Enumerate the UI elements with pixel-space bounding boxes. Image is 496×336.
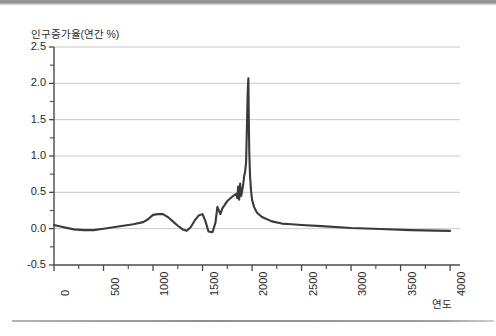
x-tick-label: 1000 xyxy=(158,272,170,296)
y-tick-label: -0.5 xyxy=(18,258,46,270)
x-tick-label: 4000 xyxy=(455,272,467,296)
x-tick-label: 2000 xyxy=(257,272,269,296)
population-growth-rate-chart: 인구증가율(연간 %) 연도 -0.50.00.51.01.52.02.5 05… xyxy=(0,0,496,336)
y-tick-label: 1.0 xyxy=(18,149,46,161)
x-tick-label: 0 xyxy=(59,290,71,296)
x-tick-label: 500 xyxy=(109,278,121,296)
y-tick-label: 2.5 xyxy=(18,40,46,52)
y-tick-label: 2.0 xyxy=(18,76,46,88)
y-tick-label: 0.0 xyxy=(18,222,46,234)
x-tick-label: 3500 xyxy=(406,272,418,296)
y-axis-title: 인구증가율(연간 %) xyxy=(31,26,119,41)
x-tick-label: 3000 xyxy=(356,272,368,296)
x-axis-title: 연도 xyxy=(432,296,452,311)
y-axis xyxy=(49,47,54,265)
y-tick-label: 1.5 xyxy=(18,113,46,125)
x-tick-label: 2500 xyxy=(307,272,319,296)
y-tick-label: 0.5 xyxy=(18,185,46,197)
data-series xyxy=(54,78,450,232)
series-line xyxy=(54,78,450,232)
x-axis xyxy=(54,265,460,271)
gridlines xyxy=(54,47,460,229)
chart-canvas xyxy=(0,0,496,336)
x-tick-label: 1500 xyxy=(208,272,220,296)
page-rule-line xyxy=(12,320,494,322)
